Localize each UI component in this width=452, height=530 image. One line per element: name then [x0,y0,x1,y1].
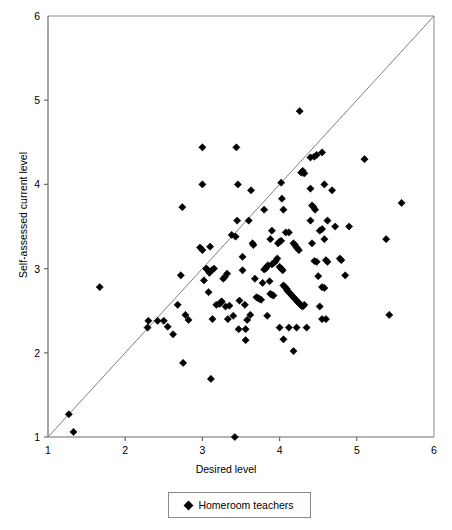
data-point-marker [259,279,266,286]
data-point-marker [239,253,246,260]
data-point-marker [174,301,181,308]
data-point-marker [342,272,349,279]
data-point-marker [303,324,310,331]
data-point-marker [383,236,390,243]
plot-canvas: 123456123456 [0,0,452,530]
data-point-marker [154,317,161,324]
data-point-marker [235,326,242,333]
legend-entry-label: Homeroom teachers [198,500,293,511]
data-point-marker [280,336,287,343]
data-point-marker [261,206,268,213]
y-axis-tick-label: 5 [34,94,40,106]
data-point-marker [321,181,328,188]
data-point-marker [164,323,171,330]
data-point-marker [328,187,335,194]
data-point-marker [266,278,273,285]
data-point-marker [278,195,285,202]
data-point-marker [200,277,207,284]
data-point-marker [293,324,300,331]
data-point-marker [345,223,352,230]
data-point-marker [247,187,254,194]
data-point-marker [316,303,323,310]
data-point-marker [169,331,176,338]
data-point-marker [276,324,283,331]
data-point-marker [285,324,292,331]
data-point-marker [268,227,275,234]
x-axis-title: Desired level [0,463,452,475]
y-axis-title: Self-assessed current level [17,105,29,325]
y-axis-tick-label: 6 [34,10,40,22]
data-point-marker [209,316,216,323]
data-point-marker [308,240,315,247]
data-point-marker [307,217,314,224]
data-point-marker [199,181,206,188]
data-point-marker [280,206,287,213]
x-axis-tick-label: 6 [431,444,437,456]
data-point-marker [264,312,271,319]
data-point-marker [236,297,243,304]
data-point-marker [145,317,152,324]
chart-legend: Homeroom teachers [168,492,311,518]
x-axis-tick-label: 4 [277,444,283,456]
data-point-marker [239,267,246,274]
data-point-marker [207,243,214,250]
identity-reference-line [48,16,434,437]
y-axis-tick-label: 1 [34,431,40,443]
data-point-marker [231,433,238,440]
data-point-marker [207,375,214,382]
data-point-marker [361,156,368,163]
data-point-marker [267,236,274,243]
data-point-marker [321,236,328,243]
data-point-marker [296,108,303,115]
y-axis-tick-label: 4 [34,178,40,190]
data-point-marker [315,273,322,280]
data-point-marker [234,217,241,224]
data-point-marker [332,223,339,230]
x-axis-tick-label: 5 [354,444,360,456]
data-point-marker [398,199,405,206]
data-point-marker [245,217,252,224]
data-point-marker [290,348,297,355]
y-axis-tick-label: 2 [34,347,40,359]
data-point-marker [180,359,187,366]
data-point-marker [242,337,249,344]
scatter-chart-figure: 123456123456 Self-assessed current level… [0,0,452,530]
data-point-group [65,108,405,441]
data-point-marker [241,301,248,308]
data-point-marker [386,311,393,318]
data-point-marker [179,204,186,211]
x-axis-tick-label: 3 [199,444,205,456]
data-point-marker [251,275,258,282]
data-point-marker [307,185,314,192]
y-axis-tick-label: 3 [34,263,40,275]
data-point-marker [324,217,331,224]
x-axis-tick-label: 2 [122,444,128,456]
data-point-marker [199,144,206,151]
data-point-marker [177,272,184,279]
x-axis-tick-label: 1 [45,444,51,456]
data-point-marker [70,428,77,435]
diamond-marker-icon [184,500,194,510]
data-point-marker [233,144,240,151]
data-point-marker [96,284,103,291]
data-point-marker [242,326,249,333]
data-point-marker [205,289,212,296]
data-point-marker [234,181,241,188]
